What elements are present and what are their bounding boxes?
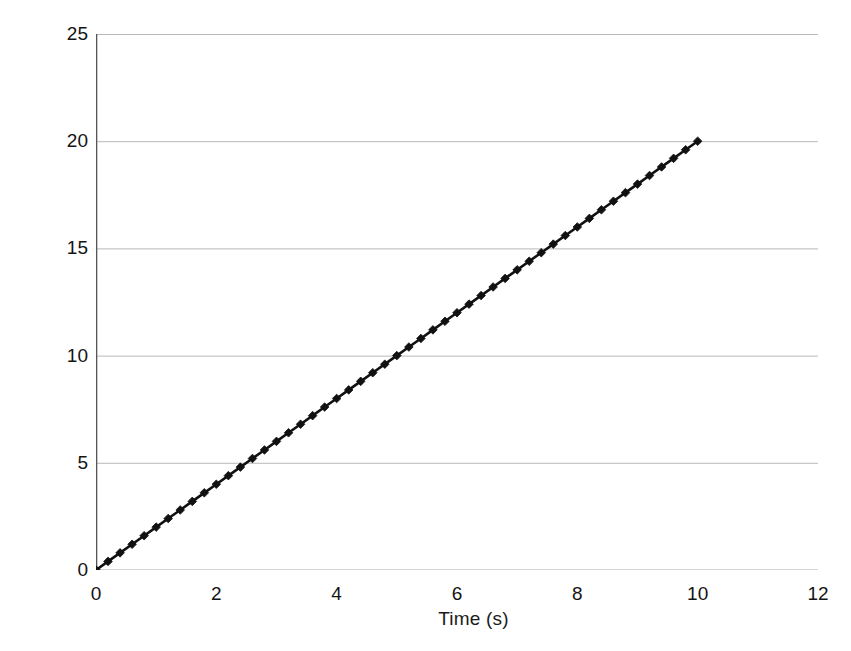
x-tick-label: 6: [433, 583, 481, 605]
velocity-time-chart: 0510152025 024681012 Time (s) Velocity (…: [0, 0, 851, 651]
x-tick-label: 8: [553, 583, 601, 605]
y-axis-title: Velocity (m/s): [0, 0, 268, 651]
x-tick-label: 4: [313, 583, 361, 605]
x-tick-label: 10: [674, 583, 722, 605]
x-tick-label: 12: [794, 583, 842, 605]
